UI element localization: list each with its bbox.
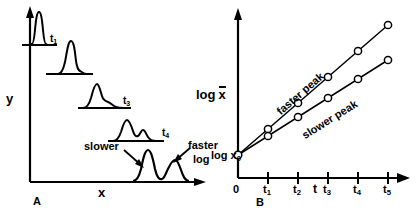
panel-b-y-axis-prefix: log: [196, 87, 216, 102]
panel-b-y-axis-var: x: [219, 88, 226, 101]
tick-label-t2: t2: [293, 184, 301, 195]
panel-b-intercept-sub: 0: [237, 154, 241, 163]
curve-label-t4: t4: [162, 128, 169, 138]
tick-label-t3: t3: [323, 184, 331, 195]
curve-label-t1: t1: [50, 34, 57, 44]
panel-b-intercept-var: x: [231, 149, 237, 161]
curve-label-t3-sub: 3: [126, 100, 130, 107]
panel-b-letter: B: [256, 197, 264, 208]
curve-label-t3: t3: [123, 96, 130, 106]
annotation-slower: slower: [84, 141, 119, 152]
panel-b-x-axis-label: t: [313, 183, 317, 195]
panel-b-group: [234, 8, 410, 184]
panel-a-x-axis-label: x: [98, 186, 105, 199]
panel-b-origin-label: 0: [233, 184, 239, 195]
tick-label-t1: t1: [263, 184, 271, 195]
panel-b-intercept-label: logx0: [211, 150, 241, 161]
panel-b-x-axis: [238, 173, 410, 183]
annotation-log: log: [193, 154, 210, 165]
tick-label-t5: t5: [383, 184, 391, 195]
panel-a-letter: A: [33, 196, 41, 207]
tick-label-t4-sub: 4: [357, 188, 361, 197]
panel-a-y-axis-label: y: [6, 92, 13, 105]
tick-label-t2-sub: 2: [297, 188, 301, 197]
tick-label-t3-sub: 3: [327, 188, 331, 197]
panel-b-intercept-prefix: log: [211, 149, 228, 161]
panel-a-x-axis: [30, 178, 206, 186]
tick-label-t4: t4: [353, 184, 361, 195]
curve-label-t4-sub: 4: [165, 132, 169, 139]
curve-label-t1-sub: 1: [53, 38, 57, 45]
panel-b-y-axis-label: logx: [196, 88, 226, 101]
panel-a-y-axis: [26, 6, 34, 182]
tick-label-t1-sub: 1: [267, 188, 271, 197]
profile-t4: [108, 120, 164, 141]
tick-label-t5-sub: 5: [387, 188, 391, 197]
slower-arrow: [124, 150, 144, 168]
figure-root: y x t1 t3 t4 slower faster log A logx lo…: [0, 0, 417, 215]
